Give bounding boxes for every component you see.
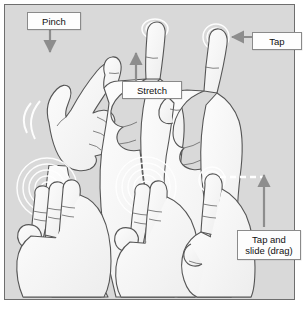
- callout-pinch-label: Pinch: [42, 16, 66, 27]
- callout-tap-and-slide[interactable]: Tap and slide (drag): [237, 230, 301, 260]
- figure-frame: Pinch Tap Stretch Tap and slide (drag): [4, 4, 295, 300]
- callout-drag-label-line2: slide (drag): [245, 245, 293, 256]
- touch-gesture-figure: Pinch Tap Stretch Tap and slide (drag): [0, 0, 303, 315]
- callout-stretch[interactable]: Stretch: [122, 81, 182, 99]
- callout-tap-label: Tap: [269, 36, 284, 47]
- callout-tap[interactable]: Tap: [252, 32, 302, 50]
- callout-drag-label-line1: Tap and: [252, 234, 286, 245]
- callout-pinch[interactable]: Pinch: [27, 12, 81, 30]
- pinch-ripple-icon: [24, 101, 40, 139]
- callout-stretch-label: Stretch: [137, 85, 167, 96]
